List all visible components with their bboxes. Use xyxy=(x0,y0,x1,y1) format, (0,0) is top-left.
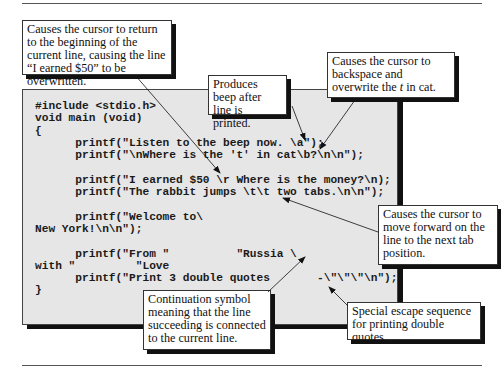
arrow-double-quotes xyxy=(329,287,348,306)
arrow-carriage-return xyxy=(135,75,220,173)
callout-arrows xyxy=(0,0,501,373)
arrow-continuation xyxy=(268,257,305,292)
bottom-rule xyxy=(22,365,482,366)
arrow-backspace xyxy=(320,100,355,149)
arrow-tab xyxy=(283,198,378,232)
arrow-beep xyxy=(292,106,305,140)
